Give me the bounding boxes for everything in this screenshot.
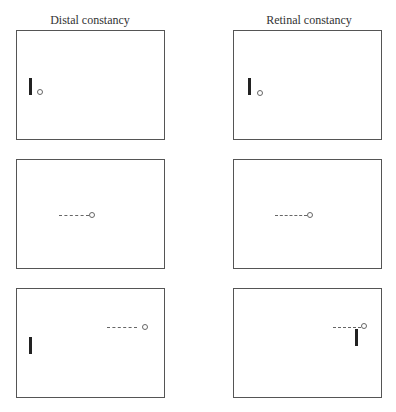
ball-object: [142, 324, 148, 330]
panel-distal-row3: [16, 288, 165, 398]
motion-trail: [107, 327, 137, 329]
bar-object: [29, 78, 32, 95]
bar-object: [355, 329, 358, 346]
ball-object: [361, 323, 367, 329]
motion-trail: [275, 215, 307, 217]
bar-object: [29, 337, 32, 354]
panel-retinal-row1: [233, 30, 382, 140]
ball-object: [257, 90, 263, 96]
ball-object: [307, 212, 313, 218]
retinal-constancy-title: Retinal constancy: [234, 13, 384, 28]
panel-distal-row2: [16, 159, 165, 269]
panel-distal-row1: [16, 30, 165, 140]
ball-object: [89, 212, 95, 218]
panel-retinal-row3: [233, 288, 382, 398]
bar-object: [248, 78, 251, 95]
motion-trail: [59, 215, 89, 217]
panel-retinal-row2: [233, 159, 382, 269]
ball-object: [37, 89, 43, 95]
distal-constancy-title: Distal constancy: [15, 13, 165, 28]
